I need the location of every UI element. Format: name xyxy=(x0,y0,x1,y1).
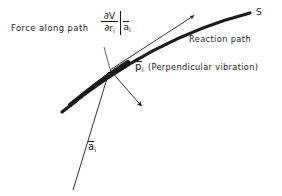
a-bar-symbol: a xyxy=(88,142,94,152)
r-letter: r xyxy=(109,22,113,33)
a-bar-symbol: a xyxy=(123,22,129,32)
overbar xyxy=(135,61,142,62)
evaluated-at-a-vector: ai xyxy=(123,22,131,35)
r-subscript: i xyxy=(113,27,115,35)
partial-derivative-fraction: ∂V ∂ri xyxy=(101,11,118,34)
a-letter: a xyxy=(88,141,94,152)
evaluation-bar xyxy=(120,11,121,35)
reaction-path-curve-thick-segment xyxy=(70,62,128,105)
reaction-path-label: Reaction path xyxy=(189,35,251,43)
perpendicular-vibration-label-group: pi (Perpendicular vibration) xyxy=(135,62,258,74)
reaction-path-diagram: Force along path ∂V ∂ri ai S Reaction pa… xyxy=(0,0,282,196)
perpendicular-vibration-arrow xyxy=(110,70,142,106)
fraction-denominator: ∂ri xyxy=(103,22,116,34)
curve-terminus-label: S xyxy=(256,8,262,17)
a-vector-label: ai xyxy=(88,142,96,154)
fraction-numerator: ∂V xyxy=(103,11,116,21)
p-subscript: i xyxy=(142,66,144,74)
force-along-path-label: Force along path xyxy=(11,24,88,32)
overbar xyxy=(123,21,129,22)
a-subscript: i xyxy=(129,26,131,34)
a-subscript: i xyxy=(94,146,96,154)
p-bar-symbol-group: pi xyxy=(135,62,144,74)
overbar xyxy=(88,141,94,142)
force-label-leader-line xyxy=(104,47,110,69)
perpendicular-vibration-text: (Perpendicular vibration) xyxy=(148,63,258,71)
r-bar-symbol: r xyxy=(109,23,113,33)
p-letter: p xyxy=(135,61,142,72)
a-letter: a xyxy=(123,21,129,32)
p-bar-symbol: p xyxy=(135,62,142,72)
force-derivative-expression: ∂V ∂ri ai xyxy=(101,11,131,35)
overbar xyxy=(109,21,113,22)
